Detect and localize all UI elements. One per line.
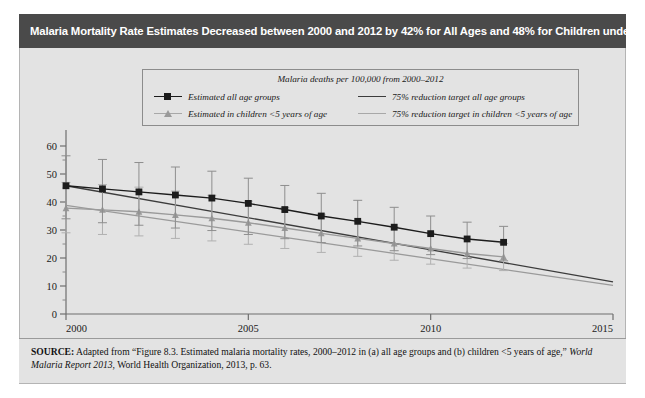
y-tick-label: 40 [47, 197, 58, 208]
legend-label: 75% reduction target all age groups [392, 92, 525, 102]
legend-entry-target-all-ages: 75% reduction target all age groups [358, 91, 525, 102]
data-point-square [318, 213, 325, 220]
chart-area: 01020304050602000200520102015 Malaria de… [19, 48, 626, 338]
data-point-square [208, 195, 215, 202]
source-text: SOURCE: Adapted from “Figure 8.3. Estima… [31, 345, 614, 371]
legend-label: Estimated in children <5 years of age [188, 109, 327, 119]
x-tick-label: 2010 [420, 323, 441, 334]
figure-title: Malaria Mortality Rate Estimates Decreas… [19, 25, 643, 37]
data-point-square [464, 236, 471, 243]
chart-legend: Malaria deaths per 100,000 from 2000–201… [142, 69, 579, 126]
triangle-marker-icon [154, 108, 182, 119]
legend-label: 75% reduction target in children <5 year… [392, 109, 572, 119]
target-line-all-ages [66, 186, 613, 282]
data-point-square [391, 224, 398, 231]
square-marker-icon [154, 91, 182, 102]
legend-entry-estimated-all-ages: Estimated all age groups [154, 91, 280, 102]
figure-title-bar: Malaria Mortality Rate Estimates Decreas… [19, 14, 626, 48]
data-point-square [500, 239, 507, 246]
data-point-square [136, 189, 143, 196]
data-point-square [354, 218, 361, 225]
y-tick-label: 0 [52, 309, 57, 320]
target-line-children [66, 205, 613, 285]
x-tick-label: 2015 [592, 323, 613, 334]
x-tick-label: 2000 [66, 323, 87, 334]
y-tick-label: 50 [47, 169, 58, 180]
data-point-square [427, 230, 434, 237]
source-line1a: Adapted from “Figure 8.3. Estimated mala… [74, 346, 569, 357]
y-tick-label: 60 [47, 141, 58, 152]
data-point-square [281, 206, 288, 213]
y-tick-label: 20 [47, 253, 58, 264]
data-point-square [172, 192, 179, 199]
legend-label: Estimated all age groups [188, 92, 280, 102]
legend-entry-estimated-children: Estimated in children <5 years of age [154, 108, 327, 119]
source-line1b: , World Health Organization, 2013, p. 63… [113, 359, 272, 370]
y-tick-label: 10 [47, 281, 58, 292]
source-label: SOURCE: [31, 346, 74, 357]
data-point-square [245, 200, 252, 207]
legend-title: Malaria deaths per 100,000 from 2000–201… [143, 74, 578, 84]
y-tick-label: 30 [47, 225, 58, 236]
legend-entry-target-children: 75% reduction target in children <5 year… [358, 108, 572, 119]
data-point-square [63, 182, 70, 189]
figure-container: Malaria Mortality Rate Estimates Decreas… [0, 0, 645, 398]
line-swatch-icon [358, 91, 386, 102]
source-note: SOURCE: Adapted from “Figure 8.3. Estima… [19, 338, 626, 383]
line-swatch-icon [358, 108, 386, 119]
x-tick-label: 2005 [238, 323, 259, 334]
data-point-square [99, 185, 106, 192]
